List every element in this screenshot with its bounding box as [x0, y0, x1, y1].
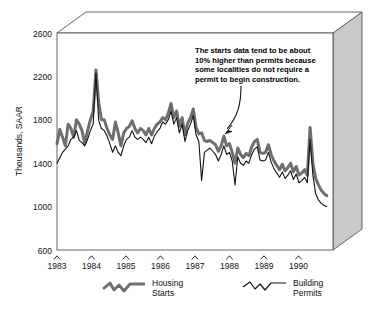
- x-axis-ticks: 19831984198519861987198819891990: [48, 256, 309, 271]
- y-axis-ticks: 2600 2200 1800 1400 1000 600: [33, 29, 52, 256]
- legend-swatch-building-permits: [243, 282, 286, 290]
- legend-label-housing-starts-line1: Housing: [152, 278, 183, 288]
- y-tick-label: 2600: [33, 29, 52, 39]
- x-tick-caret-icon: [157, 256, 163, 260]
- legend-swatch-housing-starts: [103, 283, 145, 291]
- annotation-line-4: permit to begin construction.: [195, 75, 300, 84]
- x-tick-caret-icon: [192, 256, 198, 260]
- x-tick-caret-icon: [295, 256, 301, 260]
- legend-label-housing-starts-line2: Starts: [152, 288, 174, 298]
- x-tick-caret-icon: [261, 256, 267, 260]
- chart-box-top-face: [57, 12, 362, 33]
- x-tick-label: 1983: [48, 261, 67, 271]
- x-tick-caret-icon: [226, 256, 232, 260]
- legend-label-building-permits-line1: Building: [293, 278, 324, 288]
- x-tick-label: 1989: [255, 261, 274, 271]
- housing-starts-permits-chart: 2600 2200 1800 1400 1000 600 Thousands, …: [0, 0, 384, 311]
- chart-box-right-face: [333, 12, 362, 250]
- x-tick-caret-icon: [88, 256, 94, 260]
- y-axis-title: Thousands, SAAR: [14, 106, 24, 176]
- annotation-line-2: 10% higher than permits because: [195, 56, 316, 65]
- x-tick-caret-icon: [54, 256, 60, 260]
- x-tick-label: 1988: [220, 261, 239, 271]
- x-tick-label: 1985: [117, 261, 136, 271]
- x-tick-label: 1984: [82, 261, 101, 271]
- y-tick-label: 1800: [33, 115, 52, 125]
- chart-legend: Housing Starts Building Permits: [103, 278, 324, 298]
- y-tick-label: 1400: [33, 159, 52, 169]
- x-tick-caret-icon: [123, 256, 129, 260]
- y-tick-label: 1000: [33, 202, 52, 212]
- chart-container: 2600 2200 1800 1400 1000 600 Thousands, …: [0, 0, 384, 311]
- y-tick-label: 2200: [33, 72, 52, 82]
- x-tick-label: 1986: [151, 261, 170, 271]
- x-tick-label: 1990: [289, 261, 308, 271]
- legend-label-building-permits-line2: Permits: [293, 288, 322, 298]
- annotation-line-3: some localities do not require a: [195, 65, 310, 74]
- annotation-line-1: The starts data tend to be about: [195, 46, 311, 55]
- x-tick-label: 1987: [186, 261, 205, 271]
- y-tick-label: 600: [38, 246, 52, 256]
